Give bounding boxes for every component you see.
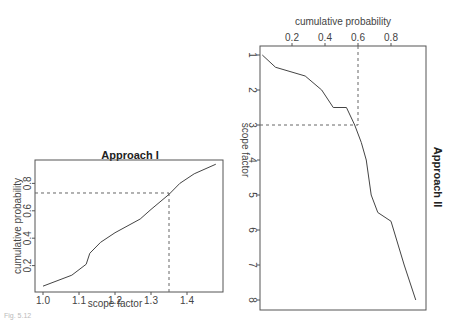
x-tick-label: 1.3 [144,295,158,306]
figure: Approach I 1.01.11.21.31.4 0.20.40.60.8 … [0,0,454,321]
chart-approach-1: Approach I 1.01.11.21.31.4 0.20.40.60.8 … [12,149,223,309]
chart-approach-2: cumulative probability 0.20.40.60.8 1234… [240,16,444,310]
reference-lines [260,46,358,125]
x-axis-label: cumulative probability [295,16,391,27]
x-tick-label: 1.1 [72,295,86,306]
chart-title: Approach II [432,147,444,208]
y-tick-label: 6 [247,227,258,233]
y-tick-label: 0.8 [22,176,33,190]
y-axis-label: scope factor [240,123,251,178]
y-tick-label: 2 [247,87,258,93]
x-axis: 0.20.40.60.8 [285,32,398,46]
data-line [262,55,415,300]
reference-lines [35,193,169,292]
data-line [43,164,216,286]
y-tick-label: 5 [247,192,258,198]
y-axis-label: cumulative probability [12,178,23,274]
y-tick-label: 1 [247,52,258,58]
y-axis: 12345678 [247,52,260,303]
y-tick-label: 0.6 [22,203,33,217]
x-tick-label: 0.8 [384,32,398,43]
y-tick-label: 0.4 [22,231,33,245]
y-axis: 0.20.40.60.8 [22,176,35,273]
x-axis-label: scope factor [88,298,143,309]
figure-caption: Fig. 5.12 [4,312,31,320]
plot-frame [35,160,223,292]
x-tick-label: 1.0 [36,295,50,306]
x-tick-label: 0.4 [318,32,332,43]
x-tick-label: 0.6 [351,32,365,43]
plot-frame [260,46,426,310]
x-tick-label: 1.4 [180,295,194,306]
y-tick-label: 8 [247,297,258,303]
y-tick-label: 7 [247,262,258,268]
chart-title: Approach I [101,149,158,161]
x-tick-label: 0.2 [285,32,299,43]
y-tick-label: 0.2 [22,258,33,272]
